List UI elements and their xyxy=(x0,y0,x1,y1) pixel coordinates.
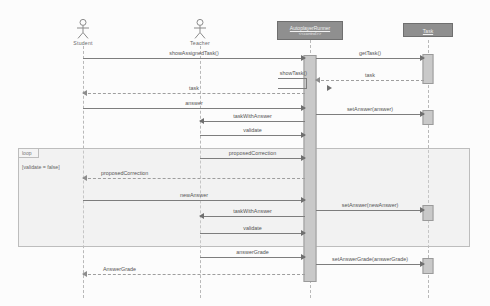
actor-student[interactable]: Student xyxy=(48,19,118,46)
message-line xyxy=(316,210,424,211)
message-label: showTask() xyxy=(280,70,307,76)
message-line xyxy=(83,178,305,179)
message-line xyxy=(316,58,424,59)
message-label: setAnswerGrade(answerGrade) xyxy=(316,256,424,262)
message-line xyxy=(200,135,305,136)
actor-label-student: Student xyxy=(48,40,118,46)
message-label: answer xyxy=(83,100,305,106)
participant-name-task: Task xyxy=(408,27,448,35)
message-line xyxy=(83,58,305,59)
actor-stick-figure-icon xyxy=(192,19,208,39)
participant-box-task[interactable]: Task xyxy=(403,23,453,37)
message-line xyxy=(200,158,305,159)
actor-label-teacher: Teacher xyxy=(165,40,235,46)
actor-teacher[interactable]: Teacher xyxy=(165,19,235,46)
fragment-guard-condition: [validate = false] xyxy=(22,164,60,170)
message-line xyxy=(316,114,424,115)
message-label: showAssignedTask() xyxy=(83,50,305,56)
message-line xyxy=(83,108,305,109)
actor-stick-figure-icon xyxy=(75,19,91,39)
fragment-operator-label: loop xyxy=(19,149,39,158)
message-label: task xyxy=(83,85,305,91)
message-line xyxy=(200,257,305,258)
message-line xyxy=(316,80,424,81)
message-line xyxy=(200,233,305,234)
sequence-diagram-canvas: loop [validate = false] Student Teacher … xyxy=(0,0,490,306)
arrowhead-right-icon xyxy=(327,85,332,91)
message-label: task xyxy=(316,72,424,78)
message-line xyxy=(83,274,305,275)
message-line xyxy=(316,264,424,265)
message-label: AnswerGrade xyxy=(83,266,325,272)
participant-box-runner[interactable]: AutoplayerRunner <<control>> xyxy=(277,21,343,40)
activation-bar-runner xyxy=(304,55,317,282)
message-label: taskWithAnswer xyxy=(200,113,305,119)
message-label: getTask() xyxy=(316,50,424,56)
message-line xyxy=(200,216,305,217)
message-label: taskWithAnswer xyxy=(200,208,305,214)
message-line xyxy=(83,200,305,201)
message-label: setAnswer(answer) xyxy=(316,106,424,112)
message-label: proposedCorrection xyxy=(83,170,323,176)
self-message-line-right xyxy=(306,78,307,88)
message-line xyxy=(200,121,305,122)
message-label: proposedCorrection xyxy=(200,150,305,156)
message-label: answerGrade xyxy=(200,249,305,255)
message-label: newAnswer xyxy=(83,192,305,198)
participant-stereotype-runner: <<control>> xyxy=(282,31,338,37)
self-message-line-top xyxy=(278,78,307,79)
message-line xyxy=(83,93,305,94)
message-label: validate xyxy=(200,225,305,231)
message-label: setAnswer(newAnswer) xyxy=(316,202,424,208)
message-label: validate xyxy=(200,127,305,133)
